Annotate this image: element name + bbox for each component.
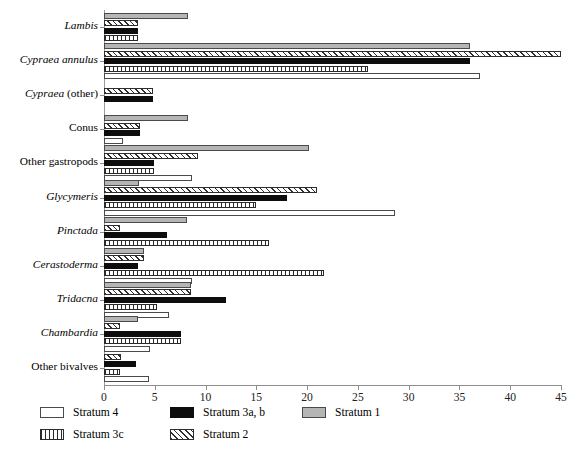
bar-s3ab <box>104 58 470 64</box>
category-label: Conus <box>0 122 98 133</box>
bar-s2 <box>104 255 144 261</box>
legend-row-bottom: Stratum 3cStratum 2 <box>40 428 440 448</box>
legend-item-s1[interactable]: Stratum 1 <box>302 406 380 419</box>
legend-item-s2[interactable]: Stratum 2 <box>170 428 248 441</box>
bar-s3c <box>104 270 324 276</box>
legend-item-s3c[interactable]: Stratum 3c <box>40 428 124 441</box>
y-axis-tick <box>100 129 104 130</box>
bar-s3c <box>104 168 154 174</box>
x-axis-tick-label: 10 <box>186 391 226 404</box>
category-label: Chambardia <box>0 327 98 338</box>
legend-swatch-s3ab <box>170 407 194 418</box>
bar-s2 <box>104 289 191 295</box>
y-axis-tick <box>100 232 104 233</box>
legend-label: Stratum 2 <box>203 428 248 441</box>
y-axis-tick <box>100 95 104 96</box>
x-axis-tick-label: 35 <box>439 391 479 404</box>
legend-label: Stratum 4 <box>73 406 118 419</box>
bar-s3ab <box>104 130 140 136</box>
category-label: Other bivalves <box>0 361 98 372</box>
category-label: Pinctada <box>0 225 98 236</box>
y-axis-tick <box>100 300 104 301</box>
chart-legend: Stratum 4Stratum 3a, bStratum 1 Stratum … <box>40 406 440 454</box>
bar-s2 <box>104 153 198 159</box>
y-axis-tick <box>100 266 104 267</box>
legend-label: Stratum 3c <box>73 428 124 441</box>
x-axis-tick-label: 45 <box>541 391 573 404</box>
bar-s2 <box>104 187 317 193</box>
x-axis-tick-label: 20 <box>287 391 327 404</box>
bar-s2 <box>104 88 153 94</box>
bar-s4 <box>104 376 149 382</box>
x-axis-tick <box>561 385 562 390</box>
x-axis-tick <box>409 385 410 390</box>
bar-s1 <box>104 43 470 49</box>
bar-s2 <box>104 354 121 360</box>
bar-s3c <box>104 338 181 344</box>
legend-swatch-s2 <box>170 429 194 440</box>
x-axis-tick <box>256 385 257 390</box>
category-label: Cypraea annulus <box>0 54 98 65</box>
x-axis-tick-label: 40 <box>490 391 530 404</box>
y-axis-tick <box>100 163 104 164</box>
legend-item-s4[interactable]: Stratum 4 <box>40 406 118 419</box>
y-axis-tick <box>100 334 104 335</box>
x-axis-tick <box>459 385 460 390</box>
category-label: Lambis <box>0 20 98 31</box>
bar-s4 <box>104 73 480 79</box>
bar-s3c <box>104 202 256 208</box>
bar-s3c <box>104 66 368 72</box>
bar-s3ab <box>104 28 138 34</box>
bar-s3c <box>104 304 157 310</box>
bar-s3ab <box>104 160 154 166</box>
bar-s2 <box>104 225 120 231</box>
x-axis-tick-label: 25 <box>338 391 378 404</box>
legend-label: Stratum 3a, b <box>203 406 265 419</box>
category-label: Tridacna <box>0 293 98 304</box>
bar-s3c <box>104 240 269 246</box>
bar-s3ab <box>104 263 138 269</box>
y-axis-tick <box>100 61 104 62</box>
x-axis-tick <box>104 385 105 390</box>
bar-s4 <box>104 138 123 144</box>
bar-s2 <box>104 20 138 26</box>
legend-swatch-s3c <box>40 429 64 440</box>
x-axis-tick <box>510 385 511 390</box>
y-axis-tick <box>100 27 104 28</box>
legend-swatch-s4 <box>40 407 64 418</box>
bar-s4 <box>104 210 395 216</box>
bar-s3ab <box>104 195 287 201</box>
bar-s3c <box>104 35 138 41</box>
y-axis-tick <box>100 368 104 369</box>
x-axis-tick-label: 5 <box>135 391 175 404</box>
bar-s3ab <box>104 232 167 238</box>
x-axis-tick <box>206 385 207 390</box>
bar-s2 <box>104 51 561 57</box>
x-axis-tick <box>358 385 359 390</box>
legend-item-s3ab[interactable]: Stratum 3a, b <box>170 406 265 419</box>
bar-s3ab <box>104 331 181 337</box>
category-label: Cerastoderma <box>0 259 98 270</box>
bar-s1 <box>104 248 144 254</box>
bar-s1 <box>104 217 187 223</box>
bar-s3ab <box>104 297 226 303</box>
bar-s3ab <box>104 96 153 102</box>
bar-s1 <box>104 115 188 121</box>
bar-s1 <box>104 180 139 186</box>
bar-chart: 051015202530354045 Stratum 4Stratum 3a, … <box>0 0 573 468</box>
category-label: Other gastropods <box>0 156 98 167</box>
category-label: Cypraea (other) <box>0 88 98 99</box>
legend-row-top: Stratum 4Stratum 3a, bStratum 1 <box>40 406 440 426</box>
x-axis-tick <box>155 385 156 390</box>
bar-s3c <box>104 369 120 375</box>
bar-s1 <box>104 13 188 19</box>
bar-s3ab <box>104 361 136 367</box>
y-axis-tick <box>100 198 104 199</box>
x-axis-tick-label: 30 <box>389 391 429 404</box>
bar-s2 <box>104 123 140 129</box>
bar-s1 <box>104 282 191 288</box>
x-axis-tick-label: 0 <box>84 391 124 404</box>
bar-s1 <box>104 316 138 322</box>
bar-s2 <box>104 323 120 329</box>
x-axis-tick <box>307 385 308 390</box>
